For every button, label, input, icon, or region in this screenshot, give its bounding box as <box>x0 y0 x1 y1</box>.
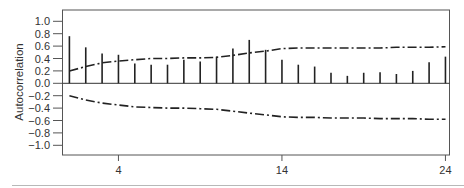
y-tick-label: −1.0 <box>28 139 50 151</box>
y-axis-title-group: Autocorrelation <box>13 43 25 120</box>
bottom-divider <box>12 185 464 186</box>
upper-confidence-band <box>69 47 445 71</box>
y-axis-ticks: 1.00.80.60.40.20.0−0.2−0.4−0.6−0.8−1.0 <box>28 15 62 151</box>
y-tick-label: 1.0 <box>35 15 50 27</box>
x-tick-label: 24 <box>439 164 451 176</box>
lower-confidence-band <box>69 96 445 120</box>
x-axis-ticks: 41424 <box>115 155 451 176</box>
plot-frame <box>63 10 450 155</box>
y-tick-label: 0.0 <box>35 77 50 89</box>
acf-chart: Autocorrelation 1.00.80.60.40.20.0−0.2−0… <box>0 0 464 188</box>
y-tick-label: 0.2 <box>35 65 50 77</box>
x-tick-label: 14 <box>276 164 288 176</box>
y-tick-label: 0.8 <box>35 28 50 40</box>
y-axis-title: Autocorrelation <box>13 43 25 120</box>
y-tick-label: −0.6 <box>28 115 50 127</box>
y-tick-label: −0.4 <box>28 102 50 114</box>
x-tick-label: 4 <box>115 164 121 176</box>
y-tick-label: −0.2 <box>28 90 50 102</box>
y-tick-label: 0.4 <box>35 53 50 65</box>
y-tick-label: −0.8 <box>28 127 50 139</box>
y-tick-label: 0.6 <box>35 40 50 52</box>
